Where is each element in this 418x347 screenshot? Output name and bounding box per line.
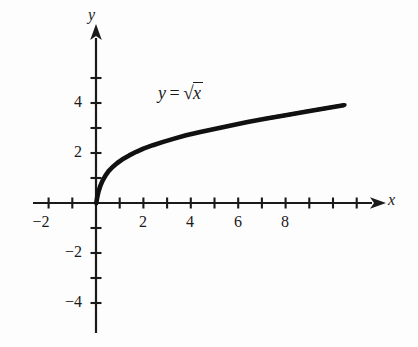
y-tick-label-4: 4: [54, 93, 82, 111]
x-tick-label-2: 2: [129, 213, 157, 231]
x-tick-label-4: 4: [176, 213, 204, 231]
y-tick-label-neg2: −2: [44, 243, 82, 261]
math-graph-figure: x y −2 2 4 6 8 4 2 −2 −4 y=√x: [0, 0, 418, 347]
x-tick-label-6: 6: [224, 213, 252, 231]
y-axis-label: y: [88, 6, 95, 24]
x-tick-label-neg2: −2: [24, 213, 58, 231]
x-tick-label-8: 8: [271, 213, 299, 231]
equation-annotation: y=√x: [158, 82, 203, 104]
equation-radicand: x: [193, 82, 203, 103]
sqrt-curve-tail-taper: [267, 105, 345, 119]
equation-operator: =: [167, 83, 184, 103]
x-axis-arrowhead: [370, 197, 386, 209]
equation-lhs: y: [158, 83, 167, 103]
y-axis-arrowhead: [90, 24, 102, 40]
sqrt-curve: [96, 105, 343, 203]
x-axis-label: x: [388, 191, 395, 209]
y-tick-label-2: 2: [54, 143, 82, 161]
y-tick-label-neg4: −4: [44, 293, 82, 311]
